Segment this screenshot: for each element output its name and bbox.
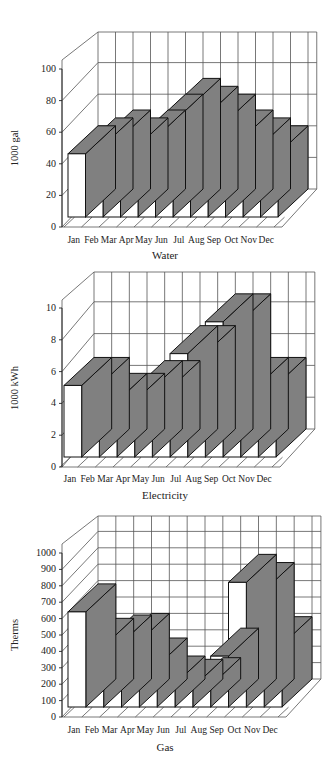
- y-tick-label: 300: [16, 663, 56, 673]
- y-tick-label: 700: [16, 597, 56, 607]
- bars: [68, 554, 312, 707]
- y-tick-label: 200: [16, 679, 56, 689]
- y-tick-label: 0: [16, 712, 56, 722]
- y-tick-label: 800: [16, 581, 56, 591]
- y-tick-label: 100: [16, 696, 56, 706]
- y-tick-label: 400: [16, 646, 56, 656]
- chart-title: Gas: [120, 742, 210, 752]
- y-tick-label: 500: [16, 630, 56, 640]
- y-tick-label: 900: [16, 564, 56, 574]
- y-tick-label: 600: [16, 614, 56, 624]
- x-tick-label: Dec: [258, 725, 282, 735]
- y-tick-label: 1000: [16, 548, 56, 558]
- y-axis: [59, 553, 62, 717]
- gas-chart: 01002003004005006007008009001000JanFebMa…: [0, 0, 332, 771]
- y-axis-label: Therms: [10, 595, 20, 675]
